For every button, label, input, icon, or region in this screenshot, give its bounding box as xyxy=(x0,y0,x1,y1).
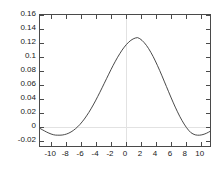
x-tick-top-5 xyxy=(126,15,127,19)
y-tick-label-2: 0.02 xyxy=(20,108,39,116)
y-tick-8 xyxy=(40,29,44,30)
y-tick-label-4: 0.06 xyxy=(20,80,39,88)
x-tick-label-6: 2 xyxy=(138,150,142,158)
x-tick-label-2: -6 xyxy=(77,150,84,158)
x-tick-9 xyxy=(186,142,187,146)
y-tick-1 xyxy=(40,127,44,128)
y-tick-7 xyxy=(40,43,44,44)
plot-area xyxy=(39,14,211,147)
x-tick-label-4: -2 xyxy=(106,150,113,158)
x-tick-2 xyxy=(81,142,82,146)
x-tick-7 xyxy=(156,142,157,146)
x-tick-top-10 xyxy=(201,15,202,19)
y-tick-right-1 xyxy=(206,127,210,128)
x-tick-top-8 xyxy=(171,15,172,19)
y-tick-label-3: 0.04 xyxy=(20,94,39,102)
x-tick-5 xyxy=(126,142,127,146)
series-signal-line xyxy=(40,38,210,136)
x-tick-1 xyxy=(66,142,67,146)
y-tick-2 xyxy=(40,113,44,114)
x-tick-6 xyxy=(141,142,142,146)
x-tick-top-9 xyxy=(186,15,187,19)
x-tick-10 xyxy=(201,142,202,146)
x-tick-top-1 xyxy=(66,15,67,19)
y-tick-right-4 xyxy=(206,85,210,86)
y-tick-label-8: 0.14 xyxy=(20,24,39,32)
y-tick-right-3 xyxy=(206,99,210,100)
x-tick-label-5: 0 xyxy=(123,150,127,158)
y-tick-5 xyxy=(40,71,44,72)
x-tick-8 xyxy=(171,142,172,146)
y-tick-right-5 xyxy=(206,71,210,72)
y-tick-label-7: 0.12 xyxy=(20,38,39,46)
x-tick-label-9: 8 xyxy=(183,150,187,158)
y-tick-4 xyxy=(40,85,44,86)
y-tick-right-0 xyxy=(206,141,210,142)
x-tick-4 xyxy=(111,142,112,146)
y-tick-right-6 xyxy=(206,57,210,58)
y-tick-right-8 xyxy=(206,29,210,30)
y-tick-label-6: 0.1 xyxy=(25,52,39,60)
y-tick-0 xyxy=(40,141,44,142)
x-tick-top-2 xyxy=(81,15,82,19)
x-tick-label-10: 10 xyxy=(195,150,204,158)
x-tick-label-8: 6 xyxy=(168,150,172,158)
x-tick-3 xyxy=(96,142,97,146)
y-tick-right-2 xyxy=(206,113,210,114)
y-tick-6 xyxy=(40,57,44,58)
y-tick-label-1: 0 xyxy=(32,122,39,130)
x-tick-label-1: -8 xyxy=(62,150,69,158)
y-tick-9 xyxy=(40,15,44,16)
x-tick-top-0 xyxy=(51,15,52,19)
x-tick-label-0: -10 xyxy=(44,150,56,158)
x-tick-top-7 xyxy=(156,15,157,19)
y-tick-label-5: 0.08 xyxy=(20,66,39,74)
x-tick-label-7: 4 xyxy=(153,150,157,158)
y-tick-right-7 xyxy=(206,43,210,44)
x-tick-top-3 xyxy=(96,15,97,19)
y-tick-label-0: -0.02 xyxy=(18,136,39,144)
x-tick-top-6 xyxy=(141,15,142,19)
x-tick-0 xyxy=(51,142,52,146)
data-curve xyxy=(40,15,210,146)
x-tick-top-4 xyxy=(111,15,112,19)
y-tick-right-9 xyxy=(206,15,210,16)
y-tick-3 xyxy=(40,99,44,100)
x-tick-label-3: -4 xyxy=(92,150,99,158)
chart-figure: -0.0200.020.040.060.080.10.120.140.16 -1… xyxy=(0,0,222,172)
y-tick-label-9: 0.16 xyxy=(20,10,39,18)
